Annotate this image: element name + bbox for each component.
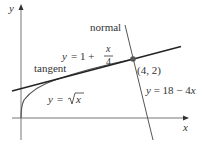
tangent-label: tangent [34, 62, 66, 74]
tangency-point-marker [130, 56, 136, 62]
tangent-equation-label: y = 1 + x 4 [61, 43, 113, 67]
point-label: (4, 2) [137, 64, 161, 77]
curve-eq-equals: = [57, 93, 63, 105]
tangent-eq-frac-num: x [105, 43, 111, 54]
normal-label: normal [90, 21, 121, 33]
curve-eq-y: y [47, 93, 53, 105]
y-axis-label: y [8, 2, 14, 14]
y-axis-arrow-icon [19, 4, 24, 10]
tangent-eq-rhs: = 1 + [71, 50, 94, 62]
normal-eq-text: y = 18 − 4x [145, 84, 196, 96]
curve-equation-label: y = x [47, 93, 84, 105]
tangent-normal-diagram: x y normal y = 1 + x 4 tangent y = x (4,… [0, 0, 207, 145]
x-axis-arrow-icon [183, 116, 189, 121]
normal-equation-label: y = 18 − 4x [145, 84, 196, 96]
curve-eq-x: x [75, 93, 81, 105]
tangent-eq-frac-den: 4 [106, 56, 111, 67]
tangent-eq-y: y [61, 50, 67, 62]
normal-eq-x: x [190, 84, 196, 96]
normal-line [125, 25, 153, 140]
x-axis-label: x [182, 121, 188, 133]
